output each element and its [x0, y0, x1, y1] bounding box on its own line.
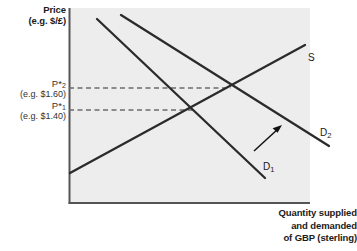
y-axis-title-line1: Price [43, 4, 66, 15]
x-axis-title-line2: and demanded [291, 220, 357, 231]
price-tick-value-p2: (e.g. $1.60) [0, 89, 66, 99]
demand-curve-1-label-subscript: 1 [270, 165, 274, 174]
x-axis-title-line3: of GBP (sterling) [283, 232, 357, 243]
demand-curve-2-label: D2 [320, 127, 331, 140]
demand-curve-2-label-subscript: 2 [327, 131, 331, 140]
price-tick-symbol-p1: P* [52, 100, 62, 111]
demand-curve-1-label: D1 [263, 161, 274, 174]
y-axis-title: Price(e.g. $/£) [0, 5, 66, 27]
x-axis-title-line1: Quantity supplied [278, 207, 357, 218]
exchange-rate-supply-demand-figure: Price(e.g. $/£) P*2 (e.g. $1.60) P*1 (e.… [0, 0, 357, 251]
price-tick-symbol-p2: P* [52, 78, 62, 89]
supply-curve-label: S [308, 52, 315, 63]
price-tick-value-p1: (e.g. $1.40) [0, 111, 66, 121]
x-axis-title: Quantity suppliedand demandedof GBP (ste… [240, 207, 357, 245]
y-axis-title-line2: (e.g. $/£) [28, 15, 66, 26]
